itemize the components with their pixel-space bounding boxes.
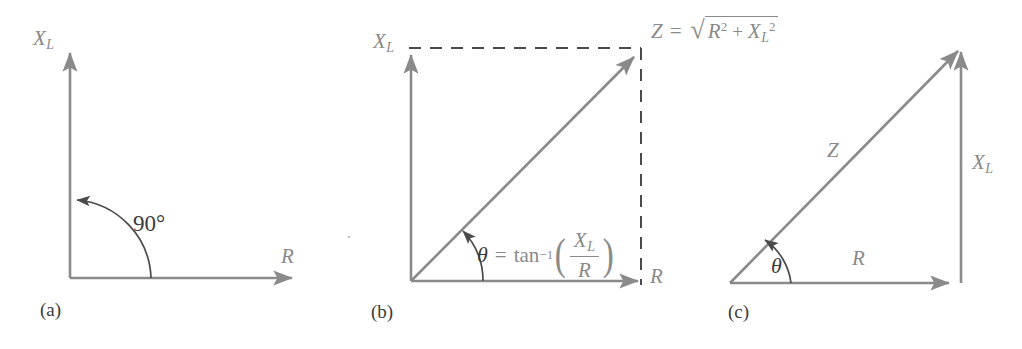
panel-a-x-axis-label: R [281,246,294,267]
fraction-denominator: R [574,257,595,282]
arctan-exponent: −1 [539,247,553,263]
radicand-second: X [748,19,761,43]
panel-c-artwork [730,51,961,283]
paren-open: ( [555,237,566,273]
panel-b-x-axis-label: R [650,266,663,287]
impedance-phasor-figure: XL R 90° (a) XL R Z = √ R2+XL2 θ = tan−1… [0,0,1022,349]
panel-c-hypotenuse-label: Z [827,140,839,161]
impedance-magnitude-equation: Z = √ R2+XL2 [651,16,778,46]
panel-c-hypotenuse-Z [730,51,958,283]
radicand-second-sub: L [761,30,769,45]
panel-a-y-axis-label-sub: L [46,37,54,52]
panel-c-caption: (c) [728,302,749,321]
angle-equals: = [495,243,507,268]
panel-a-y-axis-label: XL [33,28,54,52]
panel-b-y-axis-label-sub: L [386,40,394,55]
square-root-group: √ R2+XL2 [691,16,779,46]
radicand-second-exponent: 2 [769,19,776,34]
fraction-numerator-sub: L [587,239,595,254]
panel-a-y-axis-label-main: X [33,26,46,50]
ratio-fraction: XL R [570,228,599,282]
magnitude-equals: = [670,19,682,44]
radical-sign-icon: √ [691,17,705,47]
panel-b-y-axis-label: XL [373,31,394,55]
phase-angle-equation: θ = tan−1 ( XL R ) [477,228,616,282]
panel-c-base-label: R [852,248,865,269]
panel-a-artwork [70,53,292,278]
panel-c-vertical-label-sub: L [985,161,993,176]
panel-c-vertical-label-main: X [972,150,985,174]
theta-symbol: θ [477,242,488,268]
panel-b-y-axis-label-main: X [373,29,386,53]
paren-close: ) [603,237,614,273]
panel-c-vertical-label: XL [972,152,993,176]
magnitude-lhs: Z [651,19,663,44]
panel-b-caption: (b) [371,302,393,321]
radicand: R2+XL2 [705,16,779,46]
page-speck [348,236,350,238]
radicand-first: R [708,19,721,43]
panel-c-angle-label: θ [771,255,782,277]
panel-a-caption: (a) [40,300,61,319]
radicand-first-exponent: 2 [721,19,728,34]
radicand-plus: + [732,21,743,42]
diagram-canvas [0,0,1022,349]
fraction-numerator: XL [570,228,599,257]
panel-a-angle-label: 90° [133,212,165,235]
arctan-function: tan [514,243,540,268]
fraction-numerator-main: X [574,228,587,252]
